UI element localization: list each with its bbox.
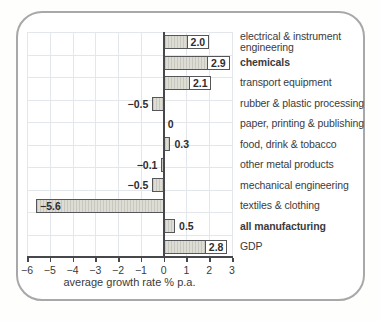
category-label: paper, printing & publishing (240, 114, 374, 134)
bar-3 (152, 97, 163, 111)
value-label: −0.5 (128, 175, 149, 195)
value-label: −0.1 (137, 155, 158, 175)
x-tick-label: −4 (62, 264, 84, 276)
x-axis-tick (209, 258, 211, 262)
bar-9 (164, 219, 175, 233)
x-axis-tick (95, 258, 97, 262)
gridline-horizontal (27, 32, 232, 33)
gridline-vertical (73, 32, 74, 257)
x-axis-tick (118, 258, 120, 262)
x-tick-label: 2 (198, 264, 220, 276)
value-label: 2.8 (205, 240, 228, 254)
gridline-horizontal (27, 167, 232, 168)
category-label: GDP (240, 237, 374, 257)
x-tick-label: −5 (39, 264, 61, 276)
category-label: other metal products (240, 155, 374, 175)
x-axis-tick (73, 258, 75, 262)
gridline-vertical (50, 32, 51, 257)
value-label: 0.3 (175, 134, 190, 154)
value-label: 2.9 (207, 56, 230, 70)
x-tick-label: 1 (175, 264, 197, 276)
category-label: textiles & clothing (240, 196, 374, 216)
value-label: 2.0 (187, 35, 210, 49)
x-tick-label: −1 (130, 264, 152, 276)
category-label: transport equipment (240, 73, 374, 93)
zero-axis-line (163, 32, 165, 258)
x-axis-tick (232, 258, 234, 262)
value-label: −0.5 (128, 93, 149, 113)
category-label: chemicals (240, 52, 374, 72)
bar-0: 2.0 (164, 35, 210, 49)
x-tick-label: 3 (221, 264, 243, 276)
value-label: 2.1 (189, 76, 212, 90)
x-axis-tick (27, 258, 29, 262)
category-label: electrical & instrument engineering (240, 32, 374, 52)
x-axis-tick (141, 258, 143, 262)
gridline-horizontal (27, 122, 232, 123)
x-axis-title: average growth rate % p.a. (27, 276, 232, 288)
value-label: 0 (168, 114, 174, 134)
category-label: rubber & plastic processing (240, 93, 374, 113)
x-axis-line (27, 256, 233, 258)
value-label: −5.6 (40, 200, 61, 212)
x-axis-tick (50, 258, 52, 262)
gridline-vertical (141, 32, 142, 257)
x-tick-label: −6 (16, 264, 38, 276)
x-tick-label: −2 (107, 264, 129, 276)
gridline-vertical (232, 32, 233, 257)
gridline-horizontal (27, 145, 232, 146)
gridline-vertical (118, 32, 119, 257)
gridline-horizontal (27, 235, 232, 236)
bar-1: 2.9 (164, 56, 230, 70)
category-label: all manufacturing (240, 216, 374, 236)
category-labels: electrical & instrument engineeringchemi… (240, 32, 374, 257)
bar-2: 2.1 (164, 76, 212, 90)
gridline-vertical (27, 32, 28, 257)
figure-root: 2.02.92.1−0.500.3−0.1−0.5−5.60.52.8−6−5−… (0, 0, 381, 321)
category-label: mechanical engineering (240, 175, 374, 195)
plot-area: 2.02.92.1−0.500.3−0.1−0.5−5.60.52.8−6−5−… (27, 32, 232, 257)
bar-7 (152, 178, 163, 192)
gridline-vertical (95, 32, 96, 257)
x-axis-tick (186, 258, 188, 262)
category-label: food, drink & tobacco (240, 134, 374, 154)
x-tick-label: −3 (84, 264, 106, 276)
x-axis-tick (164, 258, 166, 262)
bar-8: −5.6 (36, 199, 164, 213)
value-label: 0.5 (179, 216, 194, 236)
x-tick-label: 0 (153, 264, 175, 276)
bar-10: 2.8 (164, 240, 228, 254)
